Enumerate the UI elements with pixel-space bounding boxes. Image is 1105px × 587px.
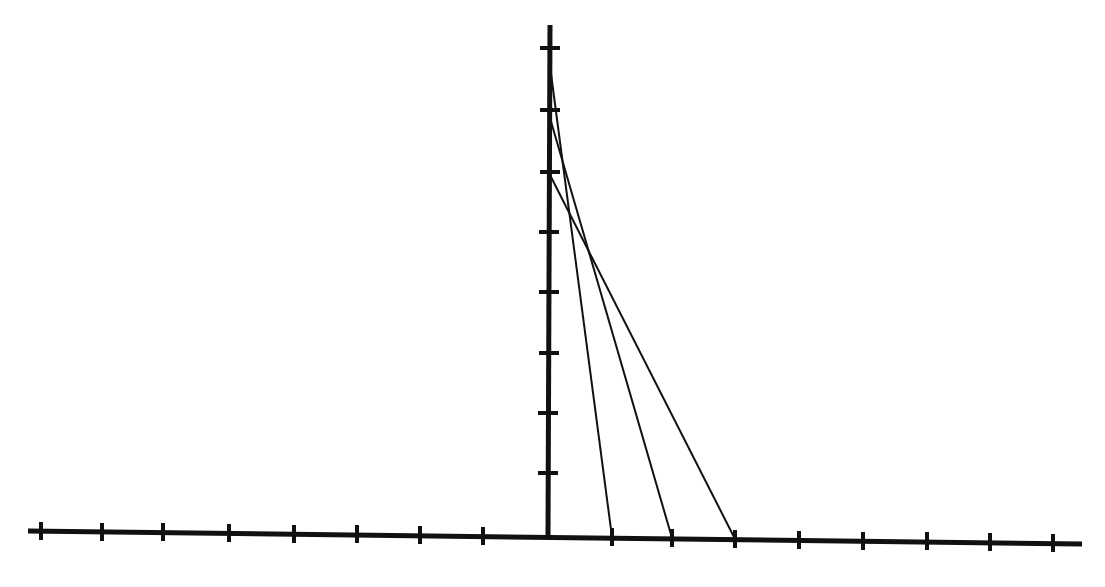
segment-3	[550, 175, 735, 539]
segment-2	[550, 118, 672, 538]
diagram-canvas	[0, 0, 1105, 587]
y-axis-line	[548, 25, 550, 535]
y-axis	[538, 25, 560, 535]
x-axis-line	[28, 531, 1082, 544]
x-axis	[28, 522, 1082, 552]
axes-diagram	[0, 0, 1105, 587]
line-segments	[550, 66, 735, 539]
